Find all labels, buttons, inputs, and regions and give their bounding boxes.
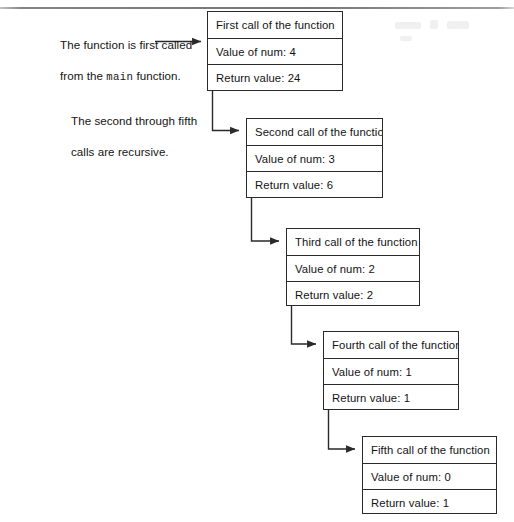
scan-smudge: [430, 20, 438, 29]
page-top-rule: [0, 7, 514, 9]
wire-first-to-second: [213, 90, 240, 131]
call-frame-return: Return value: 1: [324, 384, 458, 410]
annotation-text-prefix: from the: [60, 69, 106, 82]
annotation-text-suffix: function.: [133, 69, 181, 82]
call-frame-title: Third call of the function: [287, 229, 419, 255]
call-frame-return: Return value: 2: [287, 281, 419, 307]
annotation-recursive-line2: calls are recursive.: [71, 144, 216, 160]
scan-smudge: [447, 21, 469, 29]
call-frame-third: Third call of the function Value of num:…: [286, 228, 420, 306]
call-frame-fifth: Fifth call of the function Value of num:…: [362, 436, 497, 514]
call-frame-value: Value of num: 2: [287, 255, 419, 281]
annotation-recursive-line1: The second through fifth: [71, 113, 216, 129]
call-frame-value: Value of num: 3: [247, 145, 382, 171]
scan-smudge: [400, 36, 412, 41]
call-frame-return: Return value: 24: [208, 64, 342, 90]
annotation-main-call: The function is first called from the ma…: [60, 21, 200, 101]
call-frame-second: Second call of the function Value of num…: [246, 118, 383, 198]
annotation-main-call-line1: The function is first called: [60, 37, 200, 53]
call-frame-fourth: Fourth call of the function Value of num…: [323, 331, 459, 410]
call-frame-value: Value of num: 1: [324, 358, 458, 384]
scan-smudge: [395, 22, 421, 29]
call-frame-title: Second call of the function: [247, 119, 382, 145]
call-frame-value: Value of num: 4: [208, 38, 342, 64]
wire-fourth-to-fifth: [329, 409, 356, 449]
call-frame-value: Value of num: 0: [363, 463, 496, 489]
annotation-main-keyword: main: [106, 71, 133, 83]
wire-second-to-third: [252, 197, 280, 241]
call-frame-first: First call of the function Value of num:…: [207, 11, 343, 91]
annotation-recursive-calls: The second through fifth calls are recur…: [71, 97, 216, 175]
call-frame-title: First call of the function: [208, 12, 342, 38]
recursion-diagram: The function is first called from the ma…: [0, 0, 514, 522]
wire-third-to-fourth: [292, 305, 317, 344]
call-frame-title: Fifth call of the function: [363, 437, 496, 463]
call-frame-return: Return value: 1: [363, 489, 496, 515]
call-frame-return: Return value: 6: [247, 171, 382, 197]
annotation-main-call-line2: from the main function.: [60, 68, 200, 86]
call-frame-title: Fourth call of the function: [324, 332, 458, 358]
